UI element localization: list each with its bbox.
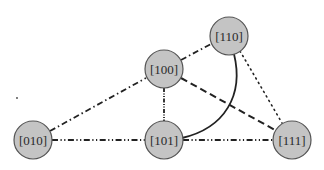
edge-010-100 [50, 78, 146, 131]
node-label: [010] [19, 133, 47, 148]
edge-100-110 [181, 44, 211, 60]
node-label: [100] [150, 62, 178, 77]
node-label: [110] [215, 29, 243, 44]
node-label: [101] [150, 133, 178, 148]
graph-diagram: [110] [100] [010] [101] [111] [0, 0, 324, 170]
node-110: [110] [210, 17, 248, 55]
edge-110-111 [240, 51, 282, 123]
node-100: [100] [145, 50, 183, 88]
node-010: [010] [14, 121, 52, 159]
node-101: [101] [145, 121, 183, 159]
node-label: [111] [278, 133, 305, 148]
edge-110-101 [182, 54, 237, 138]
edge-100-111 [181, 78, 275, 130]
stray-dot [16, 97, 18, 99]
node-111: [111] [273, 121, 311, 159]
